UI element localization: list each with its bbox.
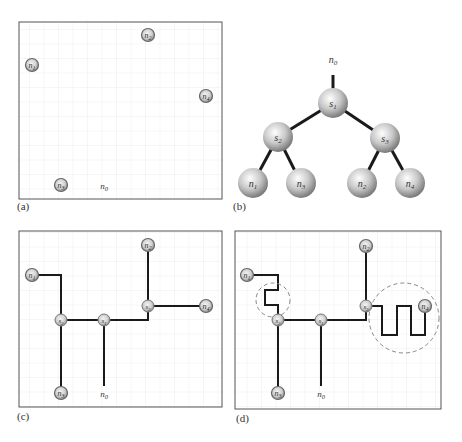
tree-node-s3: s3 <box>370 123 400 153</box>
panel-c: n2 n1 n4 n3 s3 s2 s1 n0 <box>19 231 222 407</box>
tree-leaf-n1: n1 <box>238 168 268 198</box>
tree-node-s2: s2 <box>263 122 293 152</box>
panel-d-label: (d) <box>236 412 249 424</box>
pin-n3: n3 <box>272 387 285 400</box>
pin-n3: n3 <box>55 387 68 400</box>
tree-node-s1: s1 <box>318 88 348 118</box>
pin-n4: n4 <box>200 300 213 313</box>
pin-n3: n3 <box>55 179 68 192</box>
panel-b-label: (b) <box>233 200 246 212</box>
buffer-s3: s3 <box>360 300 372 312</box>
pin-n1: n1 <box>26 269 39 282</box>
buffer-s2: s2 <box>272 314 284 326</box>
panel-c-label: (c) <box>17 410 29 422</box>
panel-a: n2 n1 n4 n3 n0 <box>19 22 222 199</box>
tree-leaf-n4: n4 <box>395 168 425 198</box>
pin-n2: n2 <box>360 240 373 253</box>
tree-leaf-n2: n2 <box>347 168 377 198</box>
pin-n2: n2 <box>142 239 155 252</box>
panel-a-frame <box>19 22 222 199</box>
buffer-s1: s1 <box>98 314 110 326</box>
panel-a-label: (a) <box>17 200 29 212</box>
buffer-s3: s3 <box>142 300 154 312</box>
pin-n1: n1 <box>26 59 39 72</box>
clock-tree-figure: n2 n1 n4 n3 n0 n0 s1 s2 s3 n1 n3 n2 n4 <box>0 0 462 442</box>
pin-n4: n4 <box>419 300 432 313</box>
buffer-s1: s1 <box>315 314 327 326</box>
pin-n2: n2 <box>142 29 155 42</box>
panel-d: n2 n1 n4 n3 s3 s2 s1 n0 <box>235 231 441 409</box>
buffer-s2: s2 <box>55 314 67 326</box>
panel-b: n0 s1 s2 s3 n1 n3 n2 n4 <box>238 54 425 198</box>
tree-leaf-n3: n3 <box>286 168 316 198</box>
root-n0-label: n0 <box>329 54 338 67</box>
pin-n1: n1 <box>241 269 254 282</box>
pin-n4: n4 <box>200 90 213 103</box>
